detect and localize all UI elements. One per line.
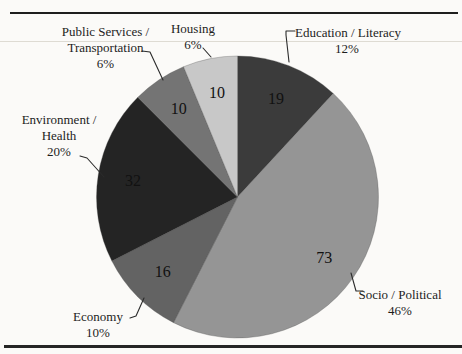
callout-label: Education / Literacy xyxy=(295,25,399,41)
callout-label: Economy xyxy=(58,309,138,325)
callout-label: Housing xyxy=(163,21,223,37)
callout-percent: 10% xyxy=(58,325,138,341)
value-label-economy: 16 xyxy=(155,263,171,280)
callout-percent: 6% xyxy=(45,56,166,72)
callout-label: Public Services / xyxy=(45,24,166,40)
bottom-rule xyxy=(4,345,462,348)
callout-environment-health: Environment / Health 20% xyxy=(10,112,108,160)
callout-label: Socio / Political xyxy=(352,287,448,303)
chart-page: 197316321010 Education / Literacy 12% Ho… xyxy=(0,0,462,354)
value-label-environment-health: 32 xyxy=(125,172,141,189)
callout-public-services-transportation: Public Services / Transportation 6% xyxy=(45,24,166,72)
value-label-education-literacy: 19 xyxy=(268,90,284,107)
callout-percent: 6% xyxy=(163,37,223,53)
callout-socio-political: Socio / Political 46% xyxy=(352,287,448,319)
leader-line-education-literacy xyxy=(286,31,295,62)
value-label-socio-political: 73 xyxy=(316,249,332,266)
callout-economy: Economy 10% xyxy=(58,309,138,341)
callout-education-literacy: Education / Literacy 12% xyxy=(295,25,399,57)
callout-label: Transportation xyxy=(45,40,166,56)
value-label-public-services-transportation: 10 xyxy=(171,100,187,117)
callout-label: Environment / xyxy=(10,112,108,128)
callout-percent: 20% xyxy=(10,144,108,160)
callout-housing: Housing 6% xyxy=(163,21,223,53)
value-label-housing: 10 xyxy=(209,84,225,101)
pie-slices xyxy=(97,56,379,338)
callout-percent: 46% xyxy=(352,303,448,319)
callout-percent: 12% xyxy=(295,41,399,57)
callout-label: Health xyxy=(10,128,108,144)
